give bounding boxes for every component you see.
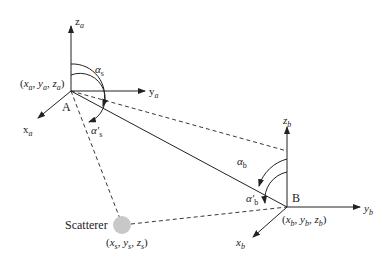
alpha-b-arc <box>259 159 287 186</box>
alpha-prime-s-arc <box>71 73 105 122</box>
x-b-label: xb <box>235 236 245 251</box>
node-b-label: B <box>292 191 300 205</box>
node-a-label: A <box>62 100 71 114</box>
y-a-label: ya <box>149 85 159 100</box>
z-b-label: zb <box>282 114 291 129</box>
edge-scatterer-to-b-dashed <box>131 207 287 224</box>
bistatic-geometry-diagram: za ya xa A (xa, ya, za) αs α′s zb yb xb … <box>0 0 392 266</box>
alpha-s-label: αs <box>95 63 104 78</box>
y-b-label: yb <box>363 202 373 217</box>
scatterer-coords: (xs, ys, zs) <box>106 236 148 251</box>
alpha-prime-b-label: α′b <box>246 192 258 207</box>
x-a-label: xa <box>23 123 33 138</box>
node-b-coords: (xb, yb, zb) <box>282 213 327 228</box>
alpha-b-label: αb <box>237 155 247 170</box>
edge-a-to-b-zaxis-dashed <box>71 91 287 151</box>
alpha-prime-b-arc <box>265 172 287 203</box>
alpha-prime-s-label: α′s <box>91 124 102 139</box>
scatterer-dot <box>113 216 131 234</box>
scatterer-label: Scatterer <box>65 218 108 232</box>
z-a-label: za <box>75 15 84 30</box>
node-a-coords: (xa, ya, za) <box>20 77 65 92</box>
edge-a-to-scatterer-dashed <box>71 91 122 224</box>
node-a-axes <box>38 26 145 118</box>
